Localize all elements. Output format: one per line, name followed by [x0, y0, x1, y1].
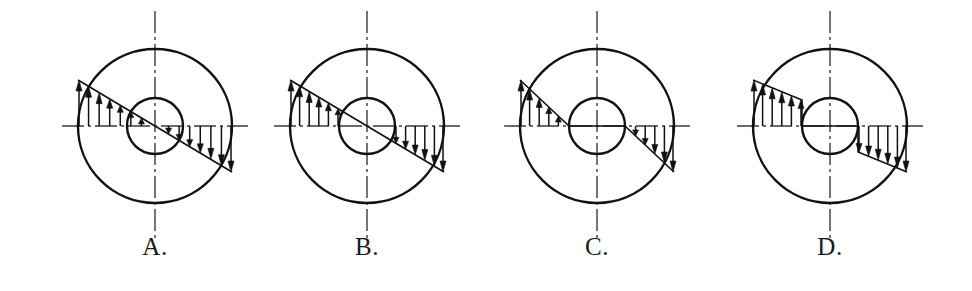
- option-panel-d[interactable]: D.: [723, 0, 937, 291]
- option-label-a: A.: [48, 232, 262, 262]
- option-panel-b[interactable]: B.: [260, 0, 474, 291]
- option-panel-c[interactable]: C.: [490, 0, 704, 291]
- option-label-b: B.: [260, 232, 474, 262]
- option-label-c: C.: [490, 232, 704, 262]
- option-panel-a[interactable]: A.: [48, 0, 262, 291]
- option-label-d: D.: [723, 232, 937, 262]
- figure-root: A.B.C.D.: [0, 0, 972, 291]
